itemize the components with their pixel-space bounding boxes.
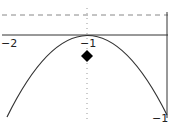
x-tick-label-neg2: −2 xyxy=(1,37,17,50)
plot-canvas: −2 −1 −1 xyxy=(0,0,172,125)
y-tick-label-neg1: −1 xyxy=(152,112,168,125)
x-tick-label-neg1: −1 xyxy=(80,37,96,50)
diamond-marker xyxy=(81,50,93,62)
